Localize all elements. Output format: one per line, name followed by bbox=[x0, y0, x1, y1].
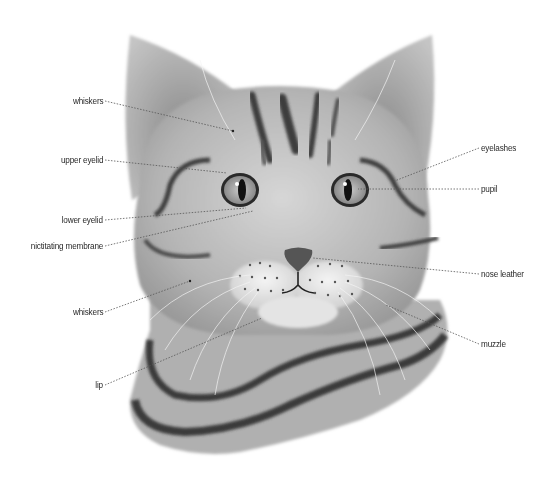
label-whiskers-upper: whiskers bbox=[73, 95, 103, 106]
chin bbox=[258, 296, 338, 328]
label-whiskers-lower: whiskers bbox=[73, 306, 103, 317]
label-nose-leather: nose leather bbox=[481, 268, 524, 279]
label-lower-eyelid: lower eyelid bbox=[62, 214, 103, 225]
label-eyelashes: eyelashes bbox=[481, 142, 516, 153]
label-lip: lip bbox=[95, 379, 103, 390]
right-eye bbox=[331, 173, 369, 207]
label-pupil: pupil bbox=[481, 183, 497, 194]
left-eye bbox=[221, 173, 259, 207]
label-upper-eyelid: upper eyelid bbox=[61, 154, 103, 165]
cat-anatomy-diagram: whiskers upper eyelid lower eyelid nicti… bbox=[0, 0, 548, 492]
label-nictitating-membrane: nictitating membrane bbox=[31, 240, 103, 251]
label-muzzle: muzzle bbox=[481, 338, 506, 349]
